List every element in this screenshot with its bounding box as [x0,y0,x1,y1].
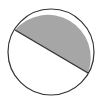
shaded-segment [15,15,91,73]
circle-diagram [0,0,103,104]
